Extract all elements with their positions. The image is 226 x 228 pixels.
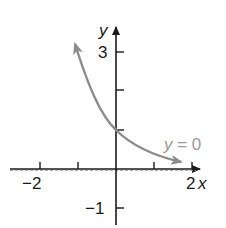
x-tick-label-2: 2 bbox=[186, 174, 195, 193]
x-axis bbox=[10, 169, 200, 171]
asymptote-equation: = 0 bbox=[173, 135, 202, 154]
svg-text:y = 0: y = 0 bbox=[163, 135, 201, 154]
y-tick-label-3: 3 bbox=[98, 43, 107, 62]
x-tick-label-neg2: −2 bbox=[22, 174, 41, 193]
y-axis-label: y bbox=[98, 21, 109, 40]
graph: y 3 −1 −2 2 x y = 0 bbox=[0, 0, 226, 228]
y-tick-label-neg1: −1 bbox=[85, 199, 104, 218]
asymptote-annotation: y = 0 bbox=[163, 135, 201, 154]
x-axis-label: x bbox=[197, 174, 207, 193]
